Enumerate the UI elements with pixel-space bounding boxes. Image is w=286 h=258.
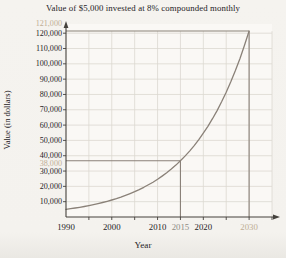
y-tick-label: 120,000	[36, 29, 62, 38]
y-tick-label: 80,000	[40, 90, 62, 99]
x-tick-label: 2015	[172, 222, 190, 232]
y-tick-label: 10,000	[40, 197, 62, 206]
y-tick-label: 100,000	[36, 59, 62, 68]
y-tick-label: 90,000	[40, 75, 62, 84]
y-tick-label: 40,000	[40, 151, 62, 160]
x-tick-label: 2010	[149, 222, 167, 232]
x-tick-label: 2000	[103, 222, 121, 232]
x-axis-title: Year	[0, 240, 286, 250]
chart-svg: 19902000201020152020203010,00020,00030,0…	[0, 0, 286, 258]
y-tick-label: 50,000	[40, 136, 62, 145]
x-tick-label: 2030	[240, 222, 258, 232]
y-tick-label: 110,000	[36, 44, 62, 53]
y-tick-label: 38,000	[40, 159, 62, 168]
compound-interest-chart-figure: Value of $5,000 invested at 8% compounde…	[0, 0, 286, 258]
x-tick-label: 2020	[195, 222, 213, 232]
x-axis-arrow	[273, 215, 280, 220]
y-tick-label: 60,000	[40, 121, 62, 130]
plot-area	[66, 24, 272, 217]
y-tick-label: 70,000	[40, 105, 62, 114]
y-tick-label: 20,000	[40, 182, 62, 191]
x-tick-label: 1990	[57, 222, 75, 232]
y-tick-label: 121,000	[36, 19, 62, 28]
